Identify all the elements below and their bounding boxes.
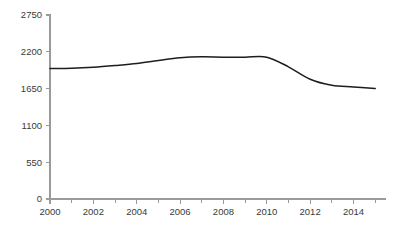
y-axis-tick-label: 0 [37,193,42,204]
x-axis-tick-label: 2008 [213,206,234,217]
x-axis-tick-label: 2010 [256,206,277,217]
x-axis-tick-label: 2002 [83,206,104,217]
y-axis-tick-label: 550 [26,157,42,168]
y-axis-tick-label: 1100 [22,120,42,131]
y-axis-tick-label: 2200 [21,46,42,57]
x-axis-tick-label: 2012 [300,206,321,217]
x-axis-tick-label: 2004 [126,206,147,217]
x-axis-tick-label: 2006 [169,206,190,217]
x-axis-tick-label: 2000 [39,206,60,217]
x-axis-tick-label: 2014 [343,206,364,217]
line-chart: 05501100165022002750 2000200220042006200… [0,0,401,233]
plot-background [0,0,401,233]
chart-container: 05501100165022002750 2000200220042006200… [0,0,401,233]
y-axis-tick-label: 1650 [21,83,42,94]
y-axis-tick-label: 2750 [21,9,42,20]
